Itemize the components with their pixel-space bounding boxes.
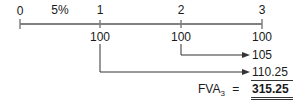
cash-flow-period-1: 100 <box>90 31 110 43</box>
equals-sign: = <box>232 82 239 96</box>
fva-result: FVA3 = <box>198 83 239 100</box>
period-label-1: 1 <box>97 4 104 16</box>
period-label-0: 0 <box>17 5 24 17</box>
rate-label: 5% <box>51 4 68 16</box>
fva-total-value: 315.25 <box>252 83 289 95</box>
arrow-period1-to-110 <box>100 44 242 72</box>
arrowhead-icon <box>242 69 250 75</box>
arrow-period2-to-105 <box>181 44 242 55</box>
compounded-value-110: 110.25 <box>252 66 288 78</box>
arrowhead-icon <box>242 52 250 58</box>
fva-subscript: 3 <box>220 89 224 98</box>
sum-underline <box>251 80 293 81</box>
compounded-value-105: 105 <box>252 49 272 61</box>
total-double-underline-2 <box>251 99 293 100</box>
total-double-underline-1 <box>251 97 293 98</box>
fva-label: FVA <box>198 82 220 96</box>
cash-flow-period-3: 100 <box>252 31 272 43</box>
cash-flow-period-2: 100 <box>171 31 191 43</box>
period-label-3: 3 <box>259 4 266 16</box>
period-label-2: 2 <box>178 4 185 16</box>
